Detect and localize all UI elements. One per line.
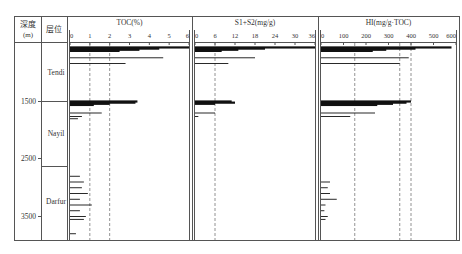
data-bar — [321, 219, 326, 220]
axis-tick-label: 200 — [361, 32, 371, 39]
axis-tick-label: 18 — [252, 32, 259, 39]
geochemical-log-chart: 深度 (m) 层位 1500 2500 3500 Tendi Nayil Dar… — [0, 0, 462, 254]
depth-tick-label: 2500 — [21, 154, 36, 163]
data-bar — [70, 50, 120, 52]
data-bar — [321, 205, 326, 206]
axis-tick-label: 36 — [309, 32, 316, 39]
data-bar — [70, 116, 82, 117]
data-bar — [70, 233, 76, 234]
data-bar — [321, 216, 328, 217]
data-bar — [70, 63, 126, 64]
panel-2: HI(mg/g·TOC)0100200300400500600 — [319, 16, 457, 240]
axis-tick-label: 12 — [232, 32, 239, 39]
axis-tick-label: 0 — [70, 32, 73, 39]
data-bar — [321, 57, 409, 58]
depth-tick-label: 3500 — [21, 212, 36, 221]
axis-tick-label: 2 — [108, 32, 111, 39]
data-bar — [195, 113, 215, 114]
panel-0: TOC(%)0123456 — [68, 16, 190, 240]
data-bar — [321, 193, 330, 194]
data-bar — [70, 104, 94, 106]
axis-tick-label: 300 — [384, 32, 394, 39]
data-panels: TOC(%)0123456S1+S2(mg/g)061218243036HI(m… — [68, 16, 457, 240]
axis-tick-label: 3 — [128, 32, 131, 39]
formation-label-nayil: Nayil — [48, 129, 65, 138]
data-bar — [195, 57, 255, 58]
formation-label-tendi: Tendi — [48, 68, 65, 77]
formation-header: 层位 — [46, 24, 62, 34]
data-bar — [70, 205, 92, 206]
panel-title: S1+S2(mg/g) — [235, 18, 276, 27]
data-bar — [321, 63, 400, 64]
data-bar — [321, 116, 350, 117]
data-bar — [321, 113, 375, 114]
axis-tick-label: 6 — [213, 32, 217, 39]
data-bar — [70, 219, 84, 220]
axis-tick-label: 0 — [195, 32, 198, 39]
data-bar — [195, 116, 198, 117]
data-bar — [321, 50, 373, 52]
data-bar — [321, 187, 328, 188]
data-bar — [70, 182, 84, 183]
data-bar — [70, 113, 102, 114]
axis-tick-label: 0 — [321, 32, 324, 39]
axis-tick-label: 30 — [292, 32, 299, 39]
depth-axis: 1500 2500 3500 — [21, 97, 41, 221]
data-bar — [195, 50, 222, 52]
data-bar — [321, 104, 377, 106]
depth-unit: (m) — [23, 31, 34, 39]
panel-1: S1+S2(mg/g)061218243036 — [193, 16, 316, 240]
axis-tick-label: 24 — [272, 32, 279, 39]
formation-label-darfur: Darfur — [46, 197, 66, 206]
data-bar — [195, 103, 215, 105]
data-bar — [70, 199, 80, 200]
axis-tick-label: 500 — [429, 32, 439, 39]
axis-tick-label: 100 — [339, 32, 349, 39]
data-bar — [70, 216, 86, 217]
data-bar — [70, 187, 82, 188]
data-bar — [70, 57, 163, 58]
data-bar — [195, 63, 228, 64]
data-bar — [321, 199, 337, 200]
data-bar — [70, 193, 88, 194]
panel-title: HI(mg/g·TOC) — [366, 18, 412, 27]
data-bar — [70, 176, 80, 177]
data-bar — [321, 182, 330, 183]
axis-tick-label: 1 — [88, 32, 91, 39]
depth-tick-label: 1500 — [21, 97, 36, 106]
data-bar — [70, 210, 80, 211]
axis-tick-label: 4 — [148, 32, 152, 39]
axis-tick-label: 600 — [446, 32, 456, 39]
data-bar — [70, 118, 78, 119]
axis-tick-label: 5 — [168, 32, 171, 39]
depth-header: 深度 — [20, 19, 36, 29]
panel-title: TOC(%) — [116, 18, 143, 27]
axis-tick-label: 400 — [406, 32, 416, 39]
data-bar — [321, 210, 324, 211]
